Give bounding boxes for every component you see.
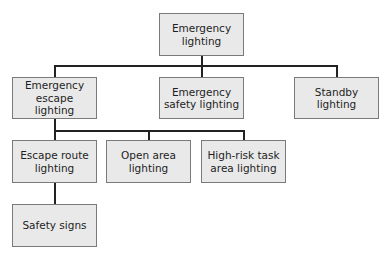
node-standby-lighting: Standby lighting	[294, 77, 379, 119]
node-label-line: escape lighting	[15, 92, 94, 117]
connector-level1-bus	[54, 65, 337, 67]
node-emergency-lighting: Emergency lighting	[159, 13, 244, 56]
node-emergency-escape-lighting: Emergency escape lighting	[12, 77, 97, 119]
connector-to-escape	[54, 65, 56, 77]
connector-to-open-area	[148, 130, 150, 140]
node-label-line: Standby	[315, 86, 358, 99]
node-label-line: Safety signs	[22, 219, 86, 232]
connector-to-standby	[336, 65, 338, 77]
node-high-risk-task-area-lighting: High-risk task area lighting	[201, 140, 286, 183]
node-label-line: lighting	[315, 98, 358, 111]
connector-route-to-signs	[54, 183, 56, 204]
node-label-line: safety lighting	[164, 98, 239, 111]
node-label-line: lighting	[172, 35, 231, 48]
node-escape-route-lighting: Escape route lighting	[12, 140, 97, 183]
node-label-line: lighting	[121, 162, 176, 175]
node-label-line: Open area	[121, 149, 176, 162]
node-emergency-safety-lighting: Emergency safety lighting	[159, 77, 244, 119]
node-label-line: Escape route	[20, 149, 89, 162]
node-label-line: Emergency	[15, 79, 94, 92]
connector-to-high-risk	[243, 130, 245, 140]
node-label-line: lighting	[20, 162, 89, 175]
node-label-line: area lighting	[207, 162, 279, 175]
node-safety-signs: Safety signs	[12, 204, 97, 247]
node-label-line: Emergency	[164, 86, 239, 99]
emergency-lighting-diagram: Emergency lighting Emergency escape ligh…	[0, 0, 385, 260]
connector-to-safety	[201, 65, 203, 77]
node-open-area-lighting: Open area lighting	[106, 140, 191, 183]
node-label-line: Emergency	[172, 22, 231, 35]
node-label-line: High-risk task	[207, 149, 279, 162]
